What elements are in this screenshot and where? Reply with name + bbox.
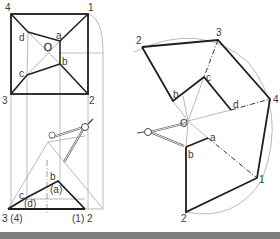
plan-label-o: O: [44, 42, 52, 53]
plan-label-1: 1: [88, 2, 94, 13]
elev-label-1-2: (1) 2: [72, 213, 93, 224]
elev-label-b: b: [50, 171, 56, 182]
dev-label-d: d: [233, 99, 239, 110]
plan-label-2: 2: [89, 95, 95, 106]
elev-label-a: (a): [50, 184, 62, 195]
plan-label-a: a: [56, 30, 62, 41]
dev-label-4: 4: [273, 94, 279, 105]
development-view: 2 3 4 1 2 c b d a b O: [134, 27, 279, 224]
dev-label-c: c: [206, 72, 211, 83]
revolution-arc: [88, 14, 103, 53]
dev-label-2-top: 2: [136, 35, 142, 46]
development-rays: [173, 77, 231, 147]
dev-label-o: O: [180, 118, 188, 129]
dev-label-1: 1: [259, 174, 265, 185]
plan-label-b: b: [62, 56, 68, 67]
dev-label-a: a: [210, 132, 216, 143]
elev-label-d: (d): [24, 198, 36, 209]
dev-label-b-bottom: b: [188, 149, 194, 160]
plan-edges: [11, 14, 88, 94]
plan-label-d: d: [19, 32, 25, 43]
dev-label-2-bottom: 2: [181, 213, 187, 224]
plan-label-4: 4: [5, 2, 11, 13]
inner-edge-dc: [27, 32, 28, 75]
development-arc: [134, 38, 272, 214]
footer-bar: [0, 232, 280, 239]
elev-label-3-4: 3 (4): [2, 213, 23, 224]
dev-label-b-top: b: [173, 89, 179, 100]
dev-label-3: 3: [216, 27, 222, 38]
dev-compass-icon: [137, 123, 186, 146]
plan-label-c: c: [19, 68, 24, 79]
plan-label-3: 3: [2, 95, 8, 106]
frustum-drawing: 4 1 2 3 d a b c O: [0, 0, 280, 239]
